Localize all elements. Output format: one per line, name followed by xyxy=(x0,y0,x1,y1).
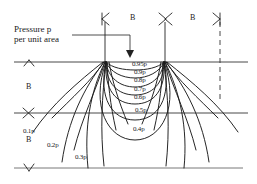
isobar-fan-right-3 xyxy=(164,62,168,166)
dim-label-depth-upper: B xyxy=(26,82,31,91)
contour-label-0.7p: 0.7p xyxy=(134,85,145,93)
isobar-fan-right-1 xyxy=(166,62,218,118)
footing-extension-lines xyxy=(105,22,220,100)
dim-label-width-left: B xyxy=(130,13,135,22)
isobar-0.2p-right xyxy=(166,62,209,162)
pressure-bulb-figure: Pressure p per unit area B B B B 0.95p 0… xyxy=(0,0,257,184)
pressure-arrow-head-icon xyxy=(126,50,134,58)
contour-label-0.3p: 0.3p xyxy=(75,153,86,161)
pressure-annotation: Pressure p per unit area xyxy=(14,24,59,45)
dim-label-depth-lower: B xyxy=(26,135,31,144)
marker-left-top-icon xyxy=(24,60,34,66)
dim-label-width-right: B xyxy=(190,13,195,22)
marker-top-left-icon xyxy=(102,13,109,25)
contour-label-0.95p: 0.95p xyxy=(132,60,147,68)
marker-top-right-icon xyxy=(213,13,220,25)
pressure-leader xyxy=(72,35,134,58)
contour-label-0.9p: 0.9p xyxy=(134,68,145,76)
contour-label-0.6p: 0.6p xyxy=(134,93,145,101)
contour-label-0.2p: 0.2p xyxy=(47,141,58,149)
isobar-fan-left-3 xyxy=(102,62,106,166)
contour-label-0.1p: 0.1p xyxy=(23,127,34,135)
left-dimension-markers xyxy=(23,60,34,171)
contour-label-0.8p: 0.8p xyxy=(134,76,145,84)
pressure-annotation-line2: per unit area xyxy=(14,34,59,44)
isobar-fan-left-2 xyxy=(74,62,105,150)
contour-label-0.5p: 0.5p xyxy=(135,106,146,114)
top-dimension-markers xyxy=(102,13,220,25)
isobar-fan-left-1 xyxy=(52,62,104,118)
marker-left-bottom-icon xyxy=(24,164,34,171)
marker-top-mid-icon xyxy=(159,13,172,25)
pressure-annotation-line1: Pressure p xyxy=(14,24,59,34)
contour-label-0.4p: 0.4p xyxy=(133,125,144,133)
isobar-0.2p-left xyxy=(62,62,104,162)
